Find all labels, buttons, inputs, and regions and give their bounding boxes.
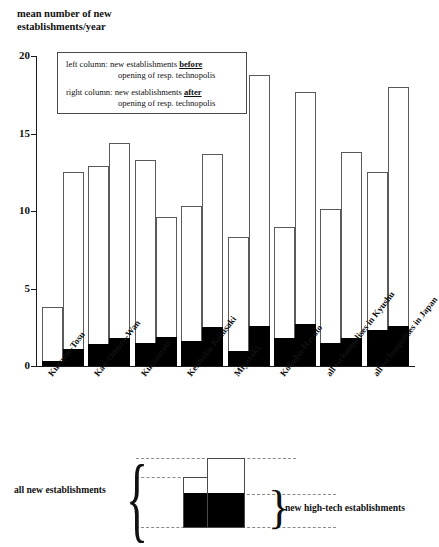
- bottom-right-label: new high-tech establishments: [285, 502, 405, 513]
- bar-before-3: [181, 206, 202, 366]
- bar-after-4: [249, 75, 270, 366]
- legend-left-emphasis: before: [179, 59, 202, 69]
- y-tick-15: [31, 134, 37, 135]
- bar-before-4: [228, 237, 249, 366]
- legend-box: left column: new establishments before o…: [57, 52, 247, 114]
- legend-line-right: right column: new establishments after o…: [58, 81, 246, 109]
- bar-before-1: [88, 166, 109, 366]
- legend-left-prefix: left column: new establishments: [66, 59, 177, 69]
- diagram-bar-right-hightech: [208, 493, 244, 527]
- y-tick-10: [31, 211, 37, 212]
- bar-after-7: [388, 87, 409, 366]
- y-axis-title: mean number of new establishments/year: [17, 8, 112, 33]
- left-brace: {: [126, 452, 148, 546]
- bar-before-7: [367, 172, 388, 366]
- legend-right-prefix: right column: new establishments: [66, 87, 182, 97]
- legend-left-cont: opening of resp. technopolis: [66, 70, 246, 81]
- bar-before-2: [135, 160, 156, 366]
- y-tick-5: [31, 289, 37, 290]
- bar-before-6: [320, 209, 341, 366]
- y-tick-label-10: 10: [6, 204, 30, 216]
- bottom-left-label: all new establishments: [14, 484, 106, 495]
- bar-after-5: [295, 92, 316, 366]
- legend-right-cont: opening of resp. technopolis: [66, 98, 246, 109]
- y-tick-label-0: 0: [6, 359, 30, 371]
- bar-before-5: [274, 227, 295, 367]
- y-tick-label-5: 5: [6, 282, 30, 294]
- y-tick-label-15: 15: [6, 127, 30, 139]
- bottom-legend-diagram: { } all new establishments new high-tech…: [0, 440, 433, 541]
- y-tick-label-20: 20: [6, 49, 30, 61]
- legend-right-emphasis: after: [184, 87, 202, 97]
- y-tick-0: [31, 366, 37, 367]
- legend-line-left: left column: new establishments before o…: [58, 53, 246, 81]
- x-axis-line: [36, 366, 415, 367]
- diagram-bar-right: [207, 458, 245, 528]
- y-tick-20: [31, 56, 37, 57]
